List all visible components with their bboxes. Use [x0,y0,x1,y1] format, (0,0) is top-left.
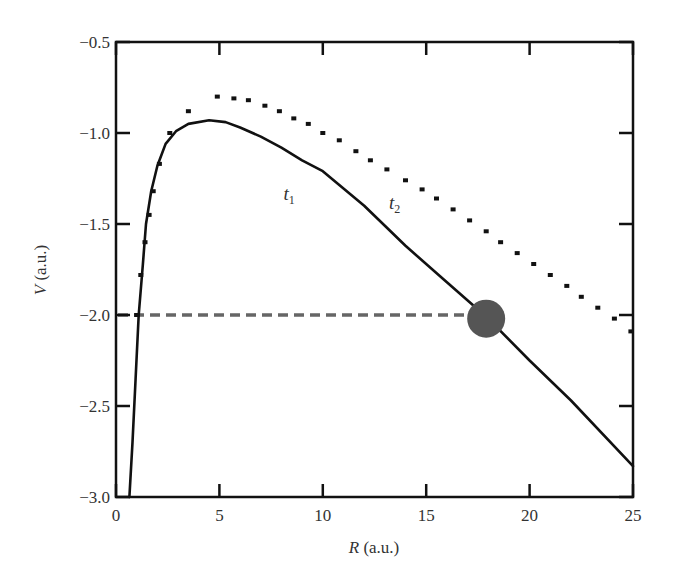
plot-area: t1t2 [118,95,633,497]
y-tick-label: −1.0 [79,124,110,143]
curve-t2-point [134,313,139,317]
curve-t2-point [320,131,325,135]
curve-t2-point [147,213,152,217]
axes: 0510152025−0.5−1.0−1.5−2.0−2.5−3.0 [79,33,641,525]
curve-t2-point [403,178,408,182]
curve-t2-point [246,98,251,102]
curve-t2-point [498,240,503,244]
curve-label-t2: t2 [389,192,400,216]
intersection-marker [467,300,505,338]
curve-label-subscript: 1 [289,193,295,207]
y-tick-label: −2.0 [79,306,110,325]
curve-t2-point [467,218,472,222]
curve-label-t1: t1 [284,183,295,207]
curve-t2-point [564,284,569,288]
curve-t2-point [215,95,220,99]
x-axis-label-var: R [348,538,360,557]
x-tick-label: 15 [418,506,435,525]
curve-t2-point [515,251,520,255]
y-tick-label: −2.5 [79,397,110,416]
x-axis-label-unit: (a.u.) [359,538,399,557]
curve-t2-point [612,317,617,321]
curve-t2-point [151,189,156,193]
y-axis-label-unit: (a.u.) [31,245,50,285]
curve-t2-point [262,104,267,108]
curve-t1 [129,120,633,497]
curve-t2-point [451,207,456,211]
curve-t2-point [368,158,373,162]
curve-t2-point [384,167,389,171]
curve-t2-point [277,109,282,113]
x-tick-label: 20 [521,506,538,525]
x-axis-label: R (a.u.) [348,538,400,557]
curve-t2-point [167,131,172,135]
curve-t2-point [157,162,162,166]
curve-t2-point [420,187,425,191]
y-tick-label: −3.0 [79,488,110,507]
curve-t2-point [531,262,536,266]
curve-t2-point [291,116,296,120]
curve-t2-point [231,96,236,100]
curve-t2-point [484,229,489,233]
potential-energy-chart: t1t2 0510152025−0.5−1.0−1.5−2.0−2.5−3.0 … [0,0,675,579]
curve-t2-point [306,122,311,126]
plot-frame [116,42,633,497]
x-tick-label: 25 [625,506,642,525]
y-axis-label: V (a.u.) [31,245,50,296]
curve-t2-point [138,273,143,277]
curve-t2-point [186,109,191,113]
curve-t2-point [579,295,584,299]
y-tick-label: −1.5 [79,215,110,234]
curve-t2-point [353,149,358,153]
curve-t2-point [434,197,439,201]
x-tick-label: 0 [112,506,121,525]
curve-t2-point [143,240,148,244]
x-tick-label: 5 [215,506,224,525]
curve-t2-point [337,138,342,142]
curve-t2-point [595,306,600,310]
curve-t2-point [548,273,553,277]
curve-label-subscript: 2 [394,202,400,216]
y-tick-label: −0.5 [79,33,110,52]
x-tick-label: 10 [314,506,331,525]
